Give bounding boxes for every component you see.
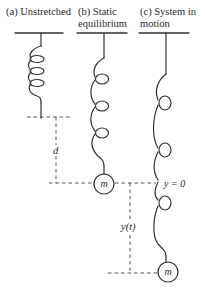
panel-a-title: (a) Unstretched <box>6 6 71 17</box>
diagram-graphics <box>0 0 205 296</box>
panel-b-title-line1: (b) Static <box>78 6 117 17</box>
equilibrium-y0-label: y = 0 <box>164 178 185 189</box>
spring-mass-diagram: (a) Unstretched (b) Static equilibrium (… <box>0 0 205 296</box>
displacement-yt-label: y(t) <box>120 221 137 232</box>
panel-a-spring <box>15 33 63 118</box>
mass-b-label: m <box>94 179 114 189</box>
panel-c-spring <box>139 33 189 282</box>
y0-text: y = 0 <box>164 178 185 189</box>
stretch-d-label: d <box>52 145 59 156</box>
panel-b-spring <box>77 33 127 194</box>
panel-c-title-line2: motion <box>140 18 170 29</box>
mass-c-label: m <box>158 267 178 277</box>
panel-c-title-line1: (c) System in <box>140 6 196 17</box>
panel-b-title-line2: equilibrium <box>78 18 127 29</box>
